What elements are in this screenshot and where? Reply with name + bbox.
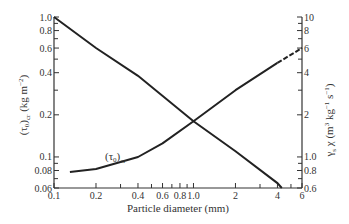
right-tick-label: 1.0: [304, 151, 317, 162]
x-tick-label: 0.2: [90, 190, 103, 201]
right-axis-title: γs χ (m3 kg−1 s−1): [323, 83, 338, 157]
right-tick-label: 8: [304, 25, 309, 36]
left-tick-label: 0.6: [40, 43, 53, 54]
right-tick-label: 0.6: [304, 183, 317, 194]
tau-cr-curve: [70, 63, 278, 172]
right-tick-label: 4: [304, 67, 309, 78]
left-tick-label: 0.08: [35, 165, 53, 176]
tau-cr-curve-extrapolated: [277, 48, 302, 63]
x-tick-label: 0.8: [174, 190, 187, 201]
right-tick-label: 0.8: [304, 165, 317, 176]
axes: [54, 17, 302, 188]
left-tick-label: 0.4: [40, 67, 53, 78]
series: [54, 17, 302, 188]
x-tick-label: 2: [233, 190, 238, 201]
left-tick-label: 0.2: [40, 109, 53, 120]
right-tick-label: 2: [304, 109, 309, 120]
x-axis-title: Particle diameter (mm): [127, 202, 229, 215]
left-tick-label: 0.8: [40, 25, 53, 36]
chart: 0.10.20.40.60.81.02460.060.080.10.20.40.…: [0, 0, 349, 224]
x-tick-label: 0.4: [132, 190, 145, 201]
right-tick-label: 6: [304, 43, 309, 54]
gamma-chi-line: [54, 17, 282, 188]
left-tick-label: 0.1: [40, 151, 53, 162]
x-tick-label: 1.0: [187, 190, 200, 201]
left-axis-title: (τ0)cr (kg m−2): [17, 74, 32, 135]
left-tick-label: 1.0: [40, 12, 53, 23]
x-tick-label: 0.6: [156, 190, 169, 201]
left-tick-label: 0.06: [35, 183, 53, 194]
curve-label: (τ0)cr: [105, 150, 126, 165]
right-tick-label: 10: [304, 12, 314, 23]
x-tick-label: 4: [275, 190, 280, 201]
